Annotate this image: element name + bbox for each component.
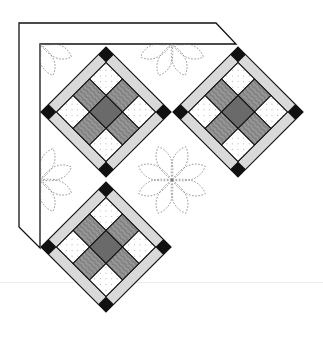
block-bottom-left [41, 182, 171, 312]
block-top-right [173, 47, 303, 177]
block-top-left [41, 47, 171, 177]
quilt-diagram [0, 0, 323, 344]
flower-center-motif [139, 147, 206, 214]
